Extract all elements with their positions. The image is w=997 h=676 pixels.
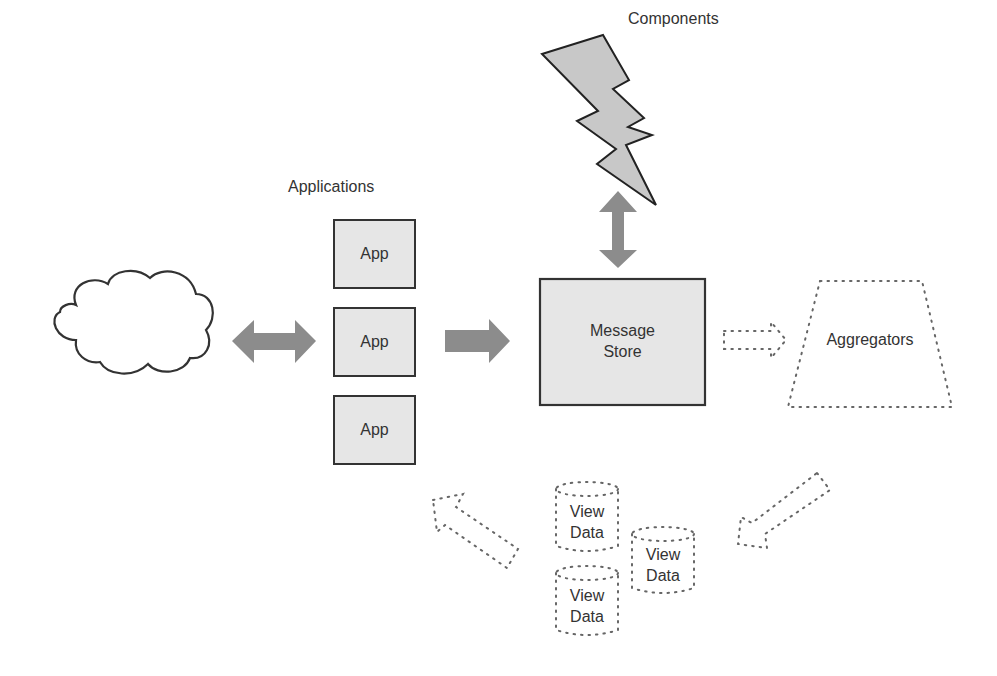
dotted-right-arrow-icon xyxy=(724,322,786,358)
applications-label: Applications xyxy=(288,178,374,196)
dotted-up-left-arrow-icon xyxy=(433,494,518,568)
lightning-bolt-icon xyxy=(542,35,656,205)
vertical-bidirectional-arrow-icon xyxy=(599,191,637,268)
app-label: App xyxy=(334,220,415,288)
view-data-line2: Data xyxy=(570,607,604,628)
view-data-label-2: View Data xyxy=(632,543,694,589)
view-data-line2: Data xyxy=(570,523,604,544)
app-label: App xyxy=(334,396,415,464)
dotted-down-left-arrow-icon xyxy=(738,473,830,548)
view-data-label-3: View Data xyxy=(556,584,618,630)
aggregators-label: Aggregators xyxy=(800,320,940,360)
components-label: Components xyxy=(628,10,719,28)
message-store-line2: Store xyxy=(603,342,641,363)
cloud-icon xyxy=(54,271,212,374)
view-data-line1: View xyxy=(570,586,604,607)
app-label: App xyxy=(334,308,415,376)
view-data-line2: Data xyxy=(646,566,680,587)
view-data-label-1: View Data xyxy=(556,500,618,546)
message-store-line1: Message xyxy=(590,321,655,342)
right-arrow-icon xyxy=(445,319,510,363)
bidirectional-arrow-icon xyxy=(232,320,316,363)
message-store-label: Message Store xyxy=(540,279,705,405)
view-data-line1: View xyxy=(646,545,680,566)
view-data-line1: View xyxy=(570,502,604,523)
